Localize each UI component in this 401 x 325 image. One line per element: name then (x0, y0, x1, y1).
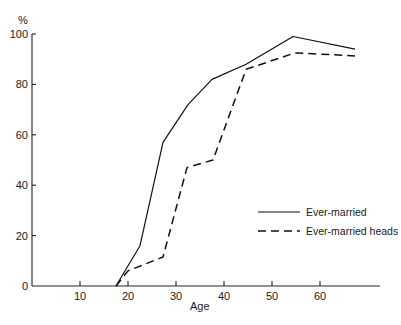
y-tick-label: 100 (10, 28, 28, 40)
y-tick-label: 60 (16, 129, 28, 141)
x-axis: 102030405060 Age (32, 281, 380, 312)
legend-item-ever-married-heads: Ever-married heads (258, 225, 398, 237)
legend-label: Ever-married heads (306, 225, 398, 237)
line-chart: % 020406080100 102030405060 Age Ever-mar… (0, 0, 401, 325)
x-tick-label: 50 (266, 290, 278, 302)
y-tick-label: 20 (16, 230, 28, 242)
y-axis: % 020406080100 (10, 14, 36, 292)
series-ever-married (116, 37, 355, 287)
series-ever-married-heads (116, 53, 355, 286)
y-axis-unit: % (18, 14, 28, 26)
legend-label: Ever-married (306, 206, 367, 218)
x-tick-label: 20 (122, 290, 134, 302)
x-axis-title: Age (190, 300, 210, 312)
series-group (116, 37, 355, 287)
y-tick-label: 40 (16, 179, 28, 191)
x-tick-label: 60 (314, 290, 326, 302)
y-tick-label: 80 (16, 78, 28, 90)
legend-item-ever-married: Ever-married (258, 206, 367, 218)
y-tick-label: 0 (22, 280, 28, 292)
x-tick-label: 10 (74, 290, 86, 302)
legend: Ever-married Ever-married heads (258, 206, 398, 237)
x-tick-label: 30 (170, 290, 182, 302)
x-tick-label: 40 (218, 290, 230, 302)
